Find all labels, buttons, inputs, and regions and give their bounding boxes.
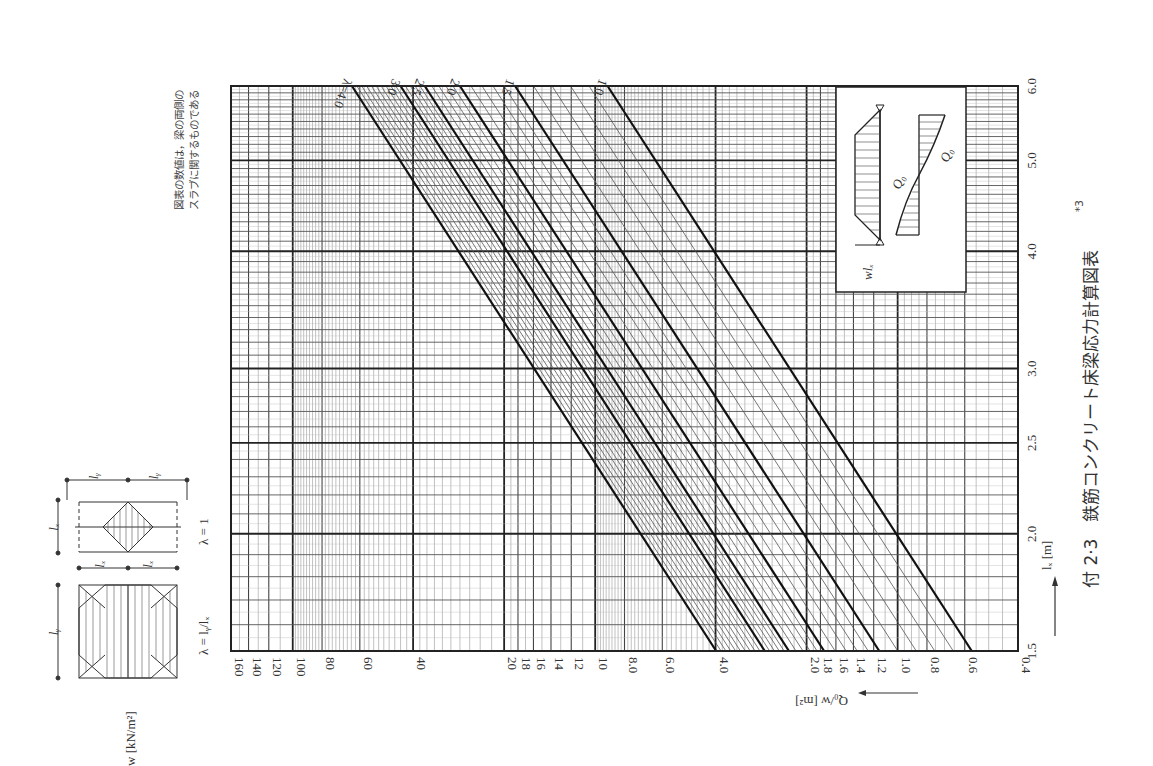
w-unit-label: w [kN/m²]: [123, 711, 138, 766]
q-tick-label: 2.0: [808, 657, 823, 673]
inset-load-label: wlₓ: [860, 264, 875, 280]
q-tick-label: 20: [505, 657, 520, 670]
left-slab-label: λ = lᵧ/lₓ: [196, 617, 212, 655]
q-tick-label: 16: [534, 657, 549, 671]
lx-tick-label: 2.5: [1024, 435, 1039, 451]
q-tick-label: 120: [270, 657, 285, 677]
inset-shear-diagram: Q₀Q₀wlₓ: [836, 87, 966, 292]
caption-superscript: *3: [1073, 200, 1085, 212]
q-tick-label: 14: [552, 657, 567, 671]
svg-text:Q₀/w [m²]: Q₀/w [m²]: [795, 694, 848, 709]
lambda-label: 2.0: [444, 77, 464, 97]
lx-axis-ticks: 1.52.02.53.04.05.06.0: [1024, 78, 1039, 659]
note-line-1: 図表の数値は，梁の両側の: [173, 90, 185, 210]
lx-tick-label: 1.5: [1024, 643, 1039, 659]
q-tick-label: 8.0: [626, 657, 641, 673]
q-tick-label: 1.6: [837, 657, 852, 674]
q-tick-label: 40: [414, 657, 429, 670]
lx-tick-label: 3.0: [1024, 360, 1039, 376]
q-tick-label: 100: [294, 657, 309, 677]
slab-diagrams: [56, 478, 189, 680]
q-tick-label: 0.8: [928, 657, 943, 673]
svg-text:lᵧ: lᵧ: [86, 473, 101, 480]
q-tick-label: 1.8: [821, 657, 836, 673]
lx-tick-label: 5.0: [1024, 152, 1039, 168]
q-tick-label: 1.0: [899, 657, 914, 673]
svg-text:lₓ [m]: lₓ [m]: [1039, 541, 1054, 570]
arrow-left-icon: [858, 690, 866, 696]
figure-caption: 付 2·3 鉄筋コンクリート床梁応力計算図表: [1081, 250, 1101, 588]
q-axis-label: Q₀/w [m²]: [795, 690, 918, 709]
lx-tick-label: 6.0: [1024, 78, 1039, 94]
svg-text:lᵧ: lᵧ: [146, 473, 161, 480]
slab-diagram-labels: lᵧ lₓ lₓ lₓ lᵧ lᵧ λ = lᵧ/lₓ λ = 1 w [kN/…: [46, 473, 212, 766]
lx-tick-label: 2.0: [1024, 526, 1039, 542]
q-tick-label: 80: [323, 657, 338, 670]
q-tick-label: 18: [519, 657, 534, 670]
lx-tick-label: 4.0: [1024, 243, 1039, 259]
note-line-2: スラブに関するものである: [188, 90, 200, 210]
q-tick-label: 4.0: [717, 657, 732, 673]
svg-text:lₓ: lₓ: [46, 523, 61, 531]
q-tick-label: 1.4: [854, 657, 869, 674]
right-slab-label: λ = 1: [196, 518, 211, 545]
q-tick-label: 160: [232, 657, 247, 677]
q-tick-label: 0.6: [966, 657, 981, 674]
arrow-up-icon: [1052, 576, 1058, 586]
q-tick-label: 10: [596, 657, 611, 670]
lambda-label: 1.5: [499, 77, 519, 97]
q-axis-ticks: 1601401201008060402018161412108.06.04.02…: [232, 657, 1034, 677]
svg-text:lₓ: lₓ: [140, 560, 155, 568]
svg-text:lᵧ: lᵧ: [46, 629, 61, 636]
q-tick-label: 1.2: [875, 657, 890, 673]
chart-figure: Q₀Q₀wlₓ 1601401201008060402018161412108.…: [0, 0, 1153, 766]
lambda-labels: λ=4.03.02.52.01.51.0: [331, 77, 611, 110]
lx-axis-label: lₓ [m]: [1039, 541, 1058, 636]
q-tick-label: 6.0: [663, 657, 678, 673]
q-tick-label: 12: [572, 657, 587, 670]
q-tick-label: 60: [361, 657, 376, 670]
q-tick-label: 140: [250, 657, 265, 677]
svg-text:lₓ: lₓ: [92, 560, 107, 568]
